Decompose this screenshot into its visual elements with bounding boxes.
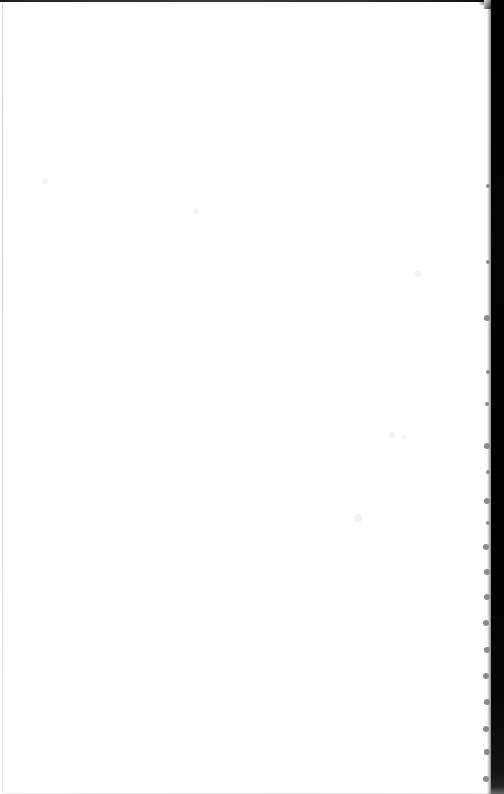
gutter-speckle [486,184,490,188]
top-scan-line [0,0,504,2]
gutter-speckle [484,498,490,504]
paper-dust-speck [402,435,406,439]
left-page-edge-line [2,3,3,791]
paper-dust-speck [415,271,421,277]
page-body-text [54,70,444,730]
gutter-top-notch [484,0,491,9]
gutter-speckle [484,594,490,600]
gutter-speckle [483,776,489,782]
gutter-speckle [483,726,489,732]
gutter-speckle [485,402,489,406]
gutter-speckle [484,749,490,755]
gutter-speckle [484,699,490,705]
gutter-speckle [484,647,490,653]
gutter-speckle [483,544,489,550]
gutter-bottom-break [491,787,504,794]
gutter-speckle [484,315,490,321]
gutter-speckle [484,443,490,449]
gutter-speckle [483,673,489,679]
paper-surface [0,0,504,794]
scanned-page [0,0,504,794]
paper-dust-speck [193,208,199,214]
gutter-speckle [486,260,490,264]
gutter-speckle [486,370,490,374]
scanner-gutter-shadow [491,0,504,794]
paper-dust-speck [354,514,362,522]
gutter-speckle [483,620,489,626]
paper-dust-speck [42,178,48,184]
gutter-speckle [486,470,490,474]
gutter-speckle [484,569,490,575]
paper-dust-speck [389,432,395,438]
gutter-speckle [486,521,490,525]
